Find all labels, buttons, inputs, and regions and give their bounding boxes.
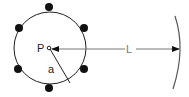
ring-dot-upper-right (80, 24, 88, 32)
ring-dot-upper-left (15, 24, 23, 32)
ring-dot-bottom (45, 84, 53, 92)
observation-arc (173, 16, 180, 89)
diagram-canvas: P a L (0, 0, 189, 97)
distance-label: L (126, 43, 132, 55)
ring-dot-lower-left (14, 65, 22, 73)
radius-label: a (48, 63, 55, 75)
center-label: P (37, 42, 44, 54)
ring-dot-top (45, 3, 53, 11)
ring-dot-lower-right (80, 65, 88, 73)
